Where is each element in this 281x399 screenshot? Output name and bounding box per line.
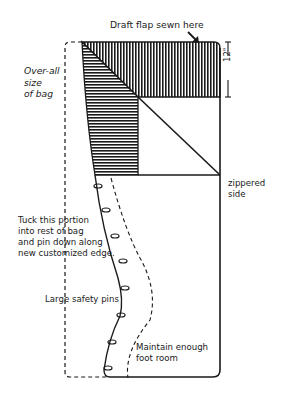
safety-pins — [94, 184, 129, 370]
safety-pin-icon — [121, 286, 129, 290]
safety-pin-icon — [94, 184, 102, 188]
dimension-label: 12" — [222, 47, 233, 62]
tuck-instruction-label: Tuck this portion into rest of bag and p… — [18, 215, 115, 259]
customized-edge — [95, 175, 122, 377]
safety-pin-icon — [117, 313, 125, 317]
safety-pin-icon — [119, 259, 127, 263]
safety-pin-icon — [104, 366, 112, 370]
foot-room-label: Maintain enough foot room — [136, 342, 208, 364]
safety-pin-icon — [102, 208, 110, 212]
zippered-side-label: zippered side — [228, 178, 265, 200]
draft-flap-label: Draft flap sewn here — [110, 19, 204, 30]
safety-pins-label: Large safety pins — [45, 294, 119, 305]
overall-size-label: Over-all size of bag — [24, 65, 60, 100]
